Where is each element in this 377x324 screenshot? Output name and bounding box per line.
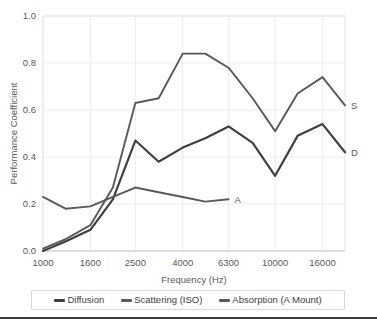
series-end-label-S: S bbox=[351, 100, 357, 111]
legend-item-diffusion: Diffusion bbox=[54, 295, 104, 305]
line-chart-svg: 0.00.20.40.60.81.0 100016002500400063001… bbox=[0, 0, 377, 288]
y-tick-label: 1.0 bbox=[23, 10, 36, 21]
legend-swatch-icon bbox=[121, 299, 132, 302]
x-axis-title: Frequency (Hz) bbox=[161, 274, 226, 285]
series-line-diffusion bbox=[43, 124, 345, 251]
chart-plot-area: 0.00.20.40.60.81.0 100016002500400063001… bbox=[0, 0, 377, 288]
x-tick-label: 2500 bbox=[125, 257, 146, 268]
chart-legend: Diffusion Scattering (ISO) Absorption (A… bbox=[31, 290, 345, 310]
y-axis-tick-labels: 0.00.20.40.60.81.0 bbox=[23, 10, 36, 256]
y-tick-label: 0.2 bbox=[23, 198, 36, 209]
legend-item-scattering: Scattering (ISO) bbox=[121, 295, 202, 305]
x-tick-label: 10000 bbox=[262, 257, 288, 268]
x-tick-label: 16000 bbox=[309, 257, 335, 268]
x-tick-label: 1000 bbox=[32, 257, 53, 268]
series-end-label-A: A bbox=[235, 194, 242, 205]
y-tick-label: 0.0 bbox=[23, 245, 36, 256]
data-series-group bbox=[43, 54, 345, 251]
series-line-absorption bbox=[43, 188, 229, 209]
bottom-divider bbox=[0, 317, 377, 319]
plot-frame bbox=[43, 16, 345, 251]
y-tick-label: 0.8 bbox=[23, 57, 36, 68]
y-tick-label: 0.4 bbox=[23, 151, 36, 162]
y-axis-title: Performance Coefficient bbox=[8, 82, 19, 184]
legend-item-label: Scattering (ISO) bbox=[134, 295, 202, 305]
x-tick-label: 4000 bbox=[172, 257, 193, 268]
legend-item-absorption: Absorption (A Mount) bbox=[219, 295, 321, 305]
y-tick-label: 0.6 bbox=[23, 104, 36, 115]
series-end-label-D: D bbox=[351, 147, 358, 158]
series-line-scattering bbox=[43, 54, 345, 249]
x-axis-tick-labels: 100016002500400063001000016000 bbox=[32, 257, 335, 268]
gridlines-group bbox=[43, 16, 345, 251]
legend-item-label: Diffusion bbox=[67, 295, 104, 305]
x-tick-label: 1600 bbox=[80, 257, 101, 268]
series-end-labels: DSA bbox=[235, 100, 358, 205]
x-tick-label: 6300 bbox=[218, 257, 239, 268]
legend-item-label: Absorption (A Mount) bbox=[232, 295, 321, 305]
chart-figure: 0.00.20.40.60.81.0 100016002500400063001… bbox=[0, 0, 377, 324]
legend-swatch-icon bbox=[219, 299, 230, 302]
legend-swatch-icon bbox=[54, 299, 65, 302]
